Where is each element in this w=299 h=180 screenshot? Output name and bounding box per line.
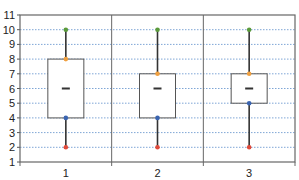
y-tick-label: 10 [3, 24, 15, 36]
y-tick-label: 9 [9, 38, 15, 50]
box-plot-chart: 1234567891011123 [0, 0, 299, 180]
y-tick-label: 7 [9, 68, 15, 80]
y-tick-label: 11 [4, 9, 15, 21]
y-tick-label: 6 [9, 83, 15, 95]
y-tick-label: 4 [9, 112, 15, 124]
q1-point [155, 116, 160, 121]
max-point [247, 27, 252, 32]
min-point [64, 145, 69, 150]
x-tick-label: 3 [246, 167, 252, 179]
q3-point [64, 57, 69, 62]
y-tick-label: 2 [9, 141, 15, 153]
max-point [155, 27, 160, 32]
q3-point [247, 72, 252, 77]
y-tick-label: 5 [9, 97, 15, 109]
min-point [247, 145, 252, 150]
min-point [155, 145, 160, 150]
y-tick-label: 1 [9, 156, 15, 168]
x-tick-label: 2 [154, 167, 160, 179]
q3-point [155, 72, 160, 77]
y-tick-label: 3 [9, 127, 15, 139]
q1-point [64, 116, 69, 121]
box [140, 74, 176, 118]
x-tick-label: 1 [63, 167, 69, 179]
y-tick-label: 8 [9, 53, 15, 65]
q1-point [247, 101, 252, 106]
max-point [64, 27, 69, 32]
